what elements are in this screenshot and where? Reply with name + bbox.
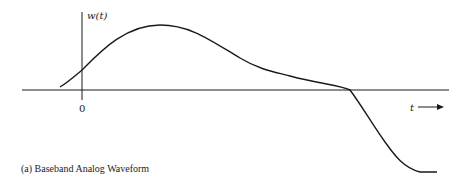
origin-label: 0 — [79, 103, 85, 114]
waveform-curve — [60, 25, 437, 172]
x-axis-label: t — [410, 102, 415, 113]
y-axis-label: w(t) — [87, 10, 107, 21]
figure-caption: (a) Baseband Analog Waveform — [21, 163, 149, 174]
waveform-diagram: w(t) 0 t — [0, 0, 462, 181]
arrow-right-icon — [437, 104, 444, 110]
